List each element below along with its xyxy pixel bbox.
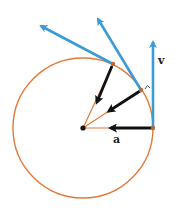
center-point bbox=[80, 125, 85, 130]
acceleration-vector-p3 bbox=[97, 66, 112, 102]
velocity-label: v bbox=[157, 54, 165, 67]
point-p1 bbox=[151, 126, 155, 130]
velocity-vector-p2 bbox=[98, 19, 141, 90]
point-p3 bbox=[111, 62, 115, 66]
point-p2 bbox=[139, 88, 143, 92]
acceleration-vector-p2 bbox=[109, 91, 140, 111]
acceleration-label: a bbox=[113, 133, 120, 146]
right-angle-mark bbox=[145, 86, 150, 90]
circular-motion-diagram: v a bbox=[0, 0, 178, 210]
